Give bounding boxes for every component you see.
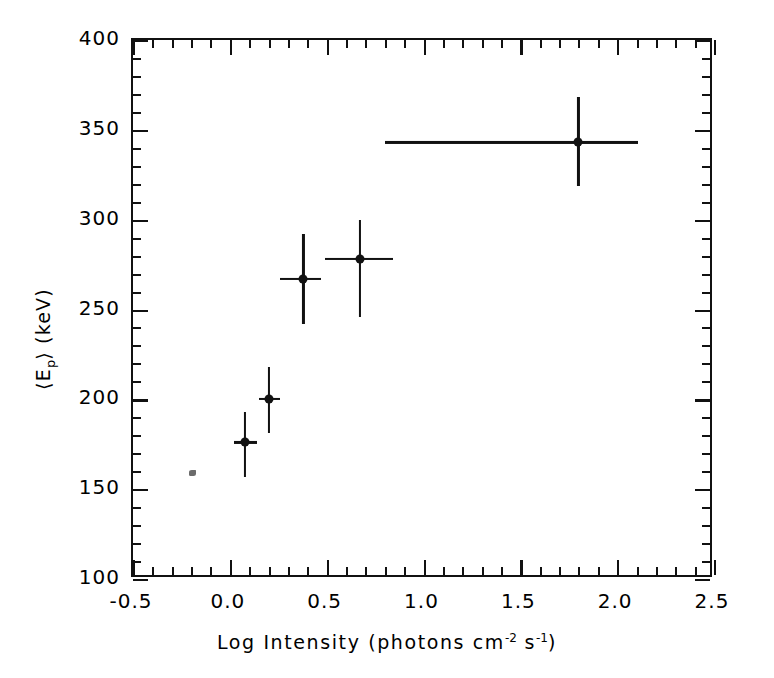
y-axis-tick xyxy=(702,148,710,150)
x-axis-tick xyxy=(346,40,348,48)
x-axis-tick xyxy=(307,567,309,575)
x-axis-tick xyxy=(520,560,522,575)
y-tick-label: 300 xyxy=(48,206,120,230)
y-axis-tick xyxy=(702,417,710,419)
x-axis-tick xyxy=(598,567,600,575)
x-axis-tick xyxy=(540,567,542,575)
x-axis-tick xyxy=(385,40,387,48)
x-axis-tick xyxy=(269,40,271,48)
y-axis-tick xyxy=(702,453,710,455)
x-axis-title: Log Intensity (photons cm-2 s-1) xyxy=(0,631,774,653)
y-axis-tick xyxy=(133,202,141,204)
y-axis-tick xyxy=(133,435,141,437)
x-axis-tick xyxy=(462,567,464,575)
y-axis-title-sub: p xyxy=(43,360,58,368)
x-axis-tick xyxy=(288,40,290,48)
x-axis-tick xyxy=(230,40,232,55)
y-axis-tick xyxy=(702,543,710,545)
x-axis-tick xyxy=(191,567,193,575)
y-tick-label: 250 xyxy=(48,296,120,320)
scan-artifact-speck xyxy=(189,470,196,476)
y-axis-tick xyxy=(133,238,141,240)
y-axis-tick xyxy=(702,274,710,276)
x-axis-tick xyxy=(714,560,716,575)
y-axis-tick xyxy=(133,363,141,365)
x-axis-tick xyxy=(656,40,658,48)
x-axis-tick xyxy=(617,560,619,575)
y-axis-tick xyxy=(702,381,710,383)
x-axis-tick xyxy=(288,567,290,575)
x-axis-tick xyxy=(424,560,426,575)
data-marker xyxy=(299,274,308,283)
y-tick-label: 400 xyxy=(48,26,120,50)
y-axis-tick xyxy=(133,417,141,419)
x-axis-tick xyxy=(637,567,639,575)
x-axis-tick xyxy=(404,567,406,575)
y-axis-tick xyxy=(133,184,141,186)
y-axis-tick xyxy=(133,489,148,491)
x-tick-label: 0.5 xyxy=(307,589,342,613)
y-axis-tick xyxy=(695,579,710,581)
x-axis-tick xyxy=(559,567,561,575)
x-axis-tick xyxy=(540,40,542,48)
x-axis-tick xyxy=(307,40,309,48)
x-tick-label: -0.5 xyxy=(109,589,152,613)
x-axis-tick xyxy=(443,567,445,575)
y-axis-tick xyxy=(133,310,148,312)
y-axis-tick xyxy=(695,489,710,491)
x-axis-tick xyxy=(559,40,561,48)
x-axis-title-exponent-2: -1 xyxy=(536,631,548,645)
error-bar-vertical xyxy=(359,220,361,317)
y-axis-tick xyxy=(133,130,148,132)
x-axis-tick xyxy=(210,567,212,575)
x-axis-tick xyxy=(443,40,445,48)
y-axis-tick xyxy=(133,453,141,455)
y-axis-tick xyxy=(702,76,710,78)
x-tick-label: 1.5 xyxy=(501,589,536,613)
y-axis-tick xyxy=(695,40,710,42)
x-axis-tick xyxy=(637,40,639,48)
x-axis-tick xyxy=(230,560,232,575)
y-axis-tick xyxy=(702,292,710,294)
y-axis-tick xyxy=(133,76,141,78)
y-axis-tick xyxy=(702,184,710,186)
y-axis-tick xyxy=(133,579,148,581)
y-axis-tick xyxy=(695,399,710,401)
y-axis-tick xyxy=(133,327,141,329)
y-axis-tick xyxy=(133,58,141,60)
y-axis-tick xyxy=(133,543,141,545)
x-axis-tick xyxy=(385,567,387,575)
y-axis-tick xyxy=(702,561,710,563)
x-axis-tick xyxy=(133,40,135,55)
y-axis-tick xyxy=(133,525,141,527)
x-axis-tick xyxy=(346,567,348,575)
x-axis-tick xyxy=(656,567,658,575)
y-axis-tick xyxy=(133,561,141,563)
y-tick-label: 100 xyxy=(48,565,120,589)
y-tick-label: 350 xyxy=(48,116,120,140)
x-axis-title-mid: s xyxy=(517,631,536,653)
x-axis-tick xyxy=(675,567,677,575)
y-axis-tick xyxy=(133,256,141,258)
x-axis-tick xyxy=(714,40,716,55)
x-axis-tick xyxy=(501,567,503,575)
y-axis-tick xyxy=(133,345,141,347)
y-axis-tick xyxy=(133,399,148,401)
data-marker xyxy=(574,138,583,147)
y-axis-tick xyxy=(133,471,141,473)
y-axis-tick xyxy=(702,435,710,437)
y-axis-tick xyxy=(702,202,710,204)
y-tick-label: 150 xyxy=(48,475,120,499)
x-axis-title-exponent-1: -2 xyxy=(505,631,517,645)
error-bar-horizontal xyxy=(385,141,639,143)
y-axis-tick xyxy=(702,471,710,473)
y-axis-tick xyxy=(133,148,141,150)
y-tick-label: 200 xyxy=(48,385,120,409)
y-axis-tick xyxy=(702,507,710,509)
y-axis-tick xyxy=(702,327,710,329)
x-axis-tick xyxy=(172,567,174,575)
data-marker xyxy=(264,395,273,404)
x-axis-tick xyxy=(152,567,154,575)
y-axis-tick xyxy=(695,130,710,132)
y-axis-tick xyxy=(133,112,141,114)
